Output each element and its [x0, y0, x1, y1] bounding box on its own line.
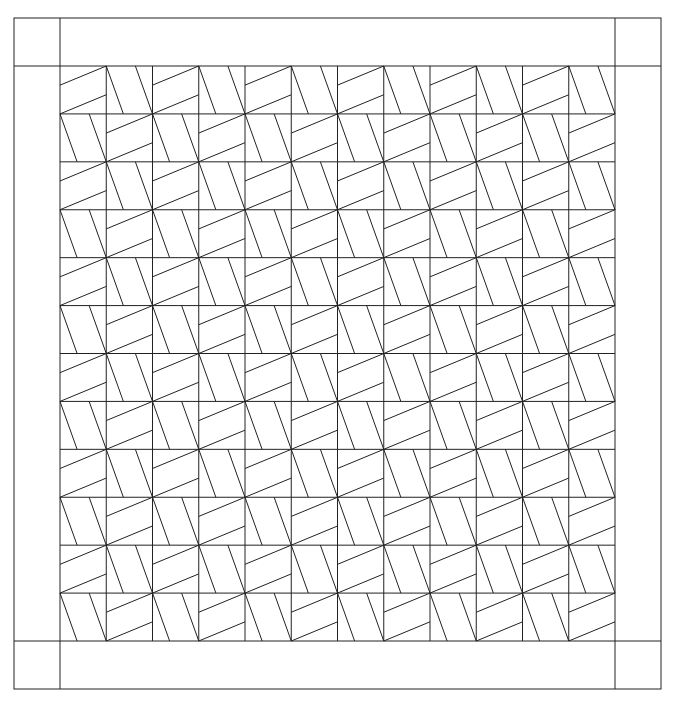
- block-seam-line: [182, 497, 199, 545]
- block-seam-line: [245, 497, 262, 545]
- quilt-block-b: [106, 545, 152, 593]
- block-seam-line: [552, 593, 569, 641]
- block-seam-line: [228, 162, 245, 210]
- block-seam-line: [199, 114, 245, 133]
- quilt-block-b: [245, 114, 291, 162]
- block-seam-line: [89, 497, 106, 545]
- block-seam-line: [106, 497, 152, 516]
- quilt-block-a: [153, 258, 199, 306]
- quilt-block-b: [291, 258, 337, 306]
- block-seam-line: [384, 545, 401, 593]
- block-seam-line: [505, 545, 522, 593]
- block-seam-line: [153, 497, 170, 545]
- block-seam-line: [523, 545, 569, 564]
- quilt-block-b: [384, 449, 430, 497]
- block-seam-line: [320, 545, 337, 593]
- block-seam-line: [60, 354, 106, 373]
- block-seam-line: [384, 449, 401, 497]
- block-seam-line: [384, 306, 430, 325]
- block-seam-line: [384, 430, 430, 449]
- quilt-block-b: [291, 162, 337, 210]
- block-seam-line: [430, 191, 476, 210]
- block-seam-line: [291, 497, 337, 516]
- quilt-block-b: [338, 593, 384, 641]
- block-seam-line: [430, 286, 476, 305]
- block-seam-line: [153, 593, 170, 641]
- quilt-block-b: [569, 354, 615, 402]
- block-seam-line: [106, 334, 152, 353]
- block-seam-line: [598, 66, 615, 114]
- quilt-block-b: [291, 354, 337, 402]
- block-seam-line: [89, 401, 106, 449]
- quilt-block-a: [476, 210, 522, 258]
- block-seam-line: [384, 334, 430, 353]
- quilt-block-b: [153, 593, 199, 641]
- block-seam-line: [459, 114, 476, 162]
- quilt-block-a: [430, 258, 476, 306]
- quilt-block-a: [569, 593, 615, 641]
- quilt-block-a: [523, 449, 569, 497]
- quilt-block-a: [291, 497, 337, 545]
- block-seam-line: [430, 449, 476, 468]
- block-seam-line: [153, 478, 199, 497]
- block-seam-line: [413, 545, 430, 593]
- block-seam-line: [106, 258, 123, 306]
- block-seam-line: [430, 497, 447, 545]
- block-seam-line: [89, 306, 106, 354]
- quilt-block-b: [430, 593, 476, 641]
- block-seam-line: [384, 497, 430, 516]
- quilt-block-b: [106, 162, 152, 210]
- quilt-block-b: [569, 545, 615, 593]
- quilt-block-a: [384, 210, 430, 258]
- quilt-block-a: [384, 497, 430, 545]
- quilt-block-b: [384, 162, 430, 210]
- quilt-block-a: [523, 354, 569, 402]
- block-seam-line: [430, 162, 476, 181]
- block-seam-line: [569, 526, 615, 545]
- quilt-block-a: [338, 449, 384, 497]
- block-seam-line: [569, 66, 586, 114]
- block-seam-line: [135, 66, 152, 114]
- quilt-block-b: [569, 162, 615, 210]
- block-seam-line: [523, 162, 569, 181]
- block-seam-line: [338, 114, 355, 162]
- block-seam-line: [523, 497, 540, 545]
- block-seam-line: [106, 162, 123, 210]
- block-seam-line: [384, 354, 401, 402]
- block-seam-line: [523, 478, 569, 497]
- quilt-block-a: [199, 306, 245, 354]
- block-seam-line: [199, 258, 216, 306]
- quilt-block-b: [153, 210, 199, 258]
- block-seam-line: [476, 162, 493, 210]
- quilt-block-a: [523, 545, 569, 593]
- quilt-block-a: [384, 306, 430, 354]
- block-seam-line: [291, 545, 308, 593]
- block-seam-line: [60, 210, 77, 258]
- block-seam-line: [552, 306, 569, 354]
- quilt-block-a: [384, 593, 430, 641]
- quilt-block-a: [60, 545, 106, 593]
- block-seam-line: [60, 574, 106, 593]
- quilt-block-b: [338, 210, 384, 258]
- block-seam-line: [338, 478, 384, 497]
- block-seam-line: [476, 545, 493, 593]
- block-seam-line: [228, 354, 245, 402]
- block-seam-line: [367, 401, 384, 449]
- block-seam-line: [367, 114, 384, 162]
- block-seam-line: [569, 162, 586, 210]
- block-seam-line: [274, 114, 291, 162]
- block-seam-line: [523, 382, 569, 401]
- quilt-block-a: [569, 114, 615, 162]
- quilt-block-a: [199, 114, 245, 162]
- block-seam-line: [228, 449, 245, 497]
- block-seam-line: [106, 401, 152, 420]
- block-seam-line: [245, 593, 262, 641]
- block-seam-line: [476, 622, 522, 641]
- block-seam-line: [274, 401, 291, 449]
- block-seam-line: [569, 239, 615, 258]
- quilt-block-a: [199, 401, 245, 449]
- block-seam-line: [384, 162, 401, 210]
- block-seam-line: [338, 210, 355, 258]
- block-seam-line: [60, 191, 106, 210]
- block-seam-line: [569, 545, 586, 593]
